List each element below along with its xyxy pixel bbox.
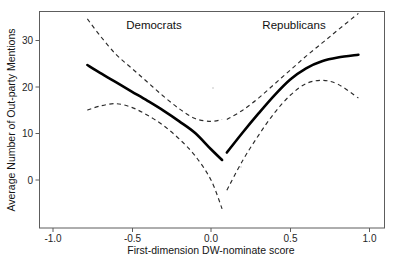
scan-speck-2 bbox=[240, 166, 242, 168]
y-tick-label-0: 0 bbox=[27, 175, 33, 186]
x-tick-label-neg1: -1.0 bbox=[44, 233, 62, 244]
y-tick-label-30: 30 bbox=[22, 35, 34, 46]
page-caption-fragment bbox=[7, 253, 307, 262]
x-tick-label-0: 0.0 bbox=[204, 233, 218, 244]
republicans-lower-ci-curve bbox=[227, 80, 359, 190]
y-tick-label-10: 10 bbox=[22, 128, 34, 139]
y-axis-ticks bbox=[36, 41, 40, 181]
figure-container: 30 20 10 0 Average Number of Out-party M… bbox=[0, 0, 397, 264]
x-tick-label-neg0-5: -0.5 bbox=[124, 233, 142, 244]
data-layer bbox=[87, 13, 358, 209]
plot-frame bbox=[40, 12, 385, 229]
chart-svg: 30 20 10 0 Average Number of Out-party M… bbox=[0, 0, 397, 264]
annotation-republicans: Republicans bbox=[262, 19, 326, 31]
x-axis-ticks bbox=[53, 228, 370, 232]
democrats-fit-curve bbox=[87, 65, 222, 160]
democrats-lower-ci-curve bbox=[87, 104, 222, 209]
republicans-fit-curve bbox=[227, 55, 359, 153]
x-tick-label-1: 1.0 bbox=[363, 233, 377, 244]
y-axis-title: Average Number of Out-party Mentions bbox=[5, 28, 17, 211]
y-tick-label-20: 20 bbox=[22, 82, 34, 93]
x-tick-label-0-5: 0.5 bbox=[284, 233, 298, 244]
annotation-democrats: Democrats bbox=[126, 19, 182, 31]
scan-speck-1 bbox=[212, 87, 214, 89]
